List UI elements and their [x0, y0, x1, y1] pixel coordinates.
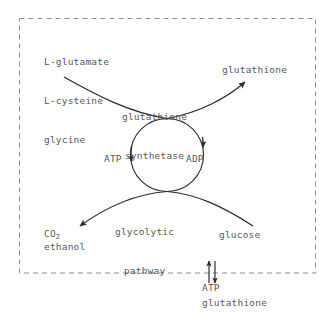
product-glutathione-label: glutathione [222, 63, 287, 76]
product-co2-text: CO [44, 228, 56, 239]
substrate-glycine: glycine [44, 133, 109, 146]
glycolytic-pathway-line1: glycolytic [115, 225, 174, 238]
cofactor-adp-label: ADP [186, 152, 204, 165]
transport-glutathione-label: glutathione [202, 296, 267, 309]
glycolytic-pathway-label: glycolytic pathway [115, 199, 174, 303]
input-glucose-label: glucose [219, 228, 260, 241]
diagram-canvas: L-glutamate L-cysteine glycine glutathio… [0, 0, 334, 322]
product-ethanol-label: ethanol [44, 240, 85, 253]
glycolysis-curve-right [167, 192, 253, 227]
substrate-l-cysteine: L-cysteine [44, 94, 109, 107]
glycolytic-pathway-line2: pathway [115, 264, 174, 277]
enzyme-label-line2: synthetase [122, 149, 187, 162]
enzyme-label-line1: glutathione [122, 110, 187, 123]
cofactor-atp-label: ATP [104, 152, 122, 165]
substrate-l-glutamate: L-glutamate [44, 55, 109, 68]
enzyme-label: glutathione synthetase [122, 84, 187, 188]
transport-atp-label: ATP [202, 281, 220, 294]
substrate-list: L-glutamate L-cysteine glycine [44, 29, 109, 172]
